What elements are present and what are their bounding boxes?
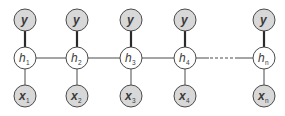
chain-graphical-model: y h 1 x 1 y h 2 x 2 y h 3 x 3 y h bbox=[0, 0, 285, 116]
hidden-node-label: h bbox=[179, 51, 186, 65]
column-4: y h 4 x 4 bbox=[174, 9, 196, 107]
input-node-subscript: n bbox=[265, 97, 269, 104]
output-node-label: y bbox=[20, 13, 29, 27]
hidden-node-label: h bbox=[258, 51, 265, 65]
hidden-node-subscript: 2 bbox=[78, 59, 82, 66]
column-3: y h 3 x 3 bbox=[120, 9, 142, 107]
output-node-label: y bbox=[126, 13, 135, 27]
output-node-label: y bbox=[259, 13, 268, 27]
hidden-node-label: h bbox=[19, 51, 26, 65]
input-node-subscript: 2 bbox=[78, 97, 82, 104]
hidden-node-label: h bbox=[71, 51, 78, 65]
column-n: y h n x n bbox=[253, 9, 275, 107]
output-node-label: y bbox=[180, 13, 189, 27]
output-node-label: y bbox=[72, 13, 81, 27]
hidden-node-label: h bbox=[125, 51, 132, 65]
column-2: y h 2 x 2 bbox=[66, 9, 88, 107]
input-node-subscript: 3 bbox=[132, 97, 136, 104]
input-node-subscript: 4 bbox=[186, 97, 190, 104]
hidden-node-subscript: 3 bbox=[132, 59, 136, 66]
hidden-node-subscript: 1 bbox=[26, 59, 30, 66]
column-1: y h 1 x 1 bbox=[14, 9, 36, 107]
hidden-node-subscript: n bbox=[265, 59, 269, 66]
hidden-node-subscript: 4 bbox=[186, 59, 190, 66]
input-node-subscript: 1 bbox=[26, 97, 30, 104]
